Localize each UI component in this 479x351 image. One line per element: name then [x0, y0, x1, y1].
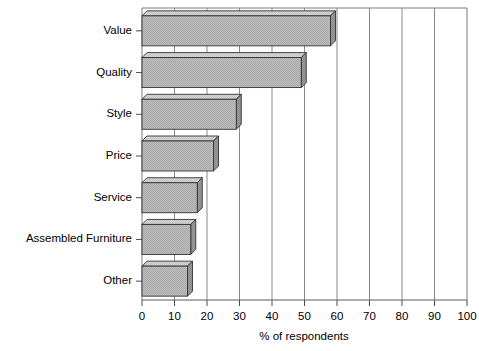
- bar-front-face: [142, 99, 236, 129]
- chart-canvas: 0102030405060708090100 ValueQualityStyle…: [0, 0, 479, 351]
- bar-top-face: [142, 261, 193, 266]
- bar-assembled-furniture: [142, 219, 196, 254]
- tick-label: 100: [457, 310, 476, 322]
- tick-label: 0: [139, 310, 145, 322]
- bar-front-face: [142, 16, 331, 46]
- bar-front-face: [142, 266, 188, 296]
- bar-side-face: [191, 219, 196, 254]
- category-label: Assembled Furniture: [26, 232, 132, 244]
- tick-label: 80: [396, 310, 409, 322]
- category-label: Price: [106, 149, 132, 161]
- tick-label: 30: [233, 310, 246, 322]
- bar-side-face: [301, 53, 306, 88]
- bar-style: [142, 94, 241, 129]
- bar-chart: 0102030405060708090100 ValueQualityStyle…: [0, 0, 479, 351]
- category-label: Style: [106, 107, 132, 119]
- bar-other: [142, 261, 193, 296]
- category-label: Value: [103, 24, 132, 36]
- x-axis-title: % of respondents: [259, 330, 349, 342]
- tick-label: 50: [298, 310, 311, 322]
- bar-top-face: [142, 94, 241, 99]
- tick-label: 40: [266, 310, 279, 322]
- tick-label: 10: [168, 310, 181, 322]
- bar-side-face: [236, 94, 241, 129]
- bar-quality: [142, 53, 306, 88]
- bar-top-face: [142, 53, 306, 58]
- tick-label: 60: [331, 310, 344, 322]
- category-label: Quality: [96, 66, 132, 78]
- bar-side-face: [197, 178, 202, 213]
- bar-front-face: [142, 58, 301, 88]
- bar-front-face: [142, 224, 191, 254]
- bar-side-face: [331, 11, 336, 46]
- bar-top-face: [142, 178, 202, 183]
- bar-front-face: [142, 141, 214, 171]
- tick-label: 90: [428, 310, 441, 322]
- category-label: Other: [103, 274, 132, 286]
- tick-label: 20: [201, 310, 214, 322]
- bar-front-face: [142, 183, 197, 213]
- bar-price: [142, 136, 219, 171]
- bar-top-face: [142, 11, 336, 16]
- category-label: Service: [94, 191, 132, 203]
- bar-side-face: [188, 261, 193, 296]
- bar-value: [142, 11, 336, 46]
- bar-service: [142, 178, 202, 213]
- bar-top-face: [142, 219, 196, 224]
- bar-side-face: [214, 136, 219, 171]
- tick-label: 70: [363, 310, 376, 322]
- bar-top-face: [142, 136, 219, 141]
